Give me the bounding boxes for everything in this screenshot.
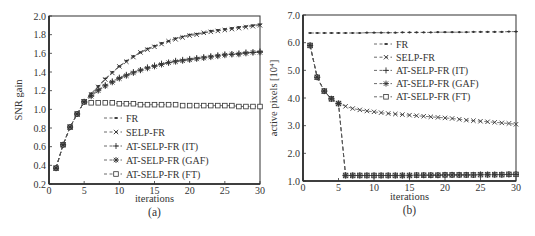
y-tick-label: 1.2	[34, 85, 47, 96]
y-tick-label: 1.0	[34, 104, 47, 115]
y-tick-label: 0.8	[34, 123, 47, 134]
legend-entry: AT-SELP-FR (FT)	[396, 91, 470, 103]
legend-entry: FR	[396, 39, 409, 50]
x-tick-label: 0	[301, 182, 306, 193]
y-tick-label: 1.8	[34, 29, 47, 40]
series-line	[310, 32, 516, 33]
legend-entry: SELP-FR	[396, 52, 435, 63]
series-markers	[53, 48, 263, 171]
legend: FRSELP-FRAT-SELP-FR (IT)AT-SELP-FR (GAF)…	[374, 39, 479, 104]
y-tick-label: 0.6	[34, 141, 47, 152]
legend-entry: SELP-FR	[126, 127, 165, 138]
legend-entry: FR	[126, 113, 139, 124]
panel-label: (b)	[403, 204, 417, 217]
y-tick-label: 2.0	[288, 148, 301, 159]
y-tick-label: 5.0	[288, 65, 301, 76]
legend-entry: AT-SELP-FR (IT)	[396, 65, 468, 77]
legend-entry: AT-SELP-FR (GAF)	[126, 155, 209, 167]
x-tick-label: 0	[47, 185, 52, 196]
x-tick-label: 25	[220, 185, 230, 196]
y-tick-label: 4.0	[288, 93, 301, 104]
y-tick-label: 7.0	[288, 10, 301, 21]
y-tick-label: 0.4	[34, 160, 47, 171]
y-tick-label: 6.0	[288, 37, 301, 48]
y-tick-label: 1.6	[34, 48, 47, 59]
x-tick-label: 25	[476, 182, 486, 193]
chart-panel-b: 0510152025301.02.03.04.05.06.07.0iterati…	[268, 10, 521, 218]
x-tick-label: 5	[336, 182, 341, 193]
legend-entry: AT-SELP-FR (IT)	[126, 141, 198, 153]
legend-entry: AT-SELP-FR (GAF)	[396, 78, 479, 90]
y-axis-label: active pixels [10⁴]	[268, 60, 279, 137]
series-markers	[53, 49, 263, 171]
x-tick-label: 30	[255, 185, 265, 196]
y-tick-label: 1.4	[34, 67, 47, 78]
y-axis-label: SNR gain	[13, 79, 24, 121]
series-markers	[308, 31, 518, 35]
y-tick-label: 3.0	[288, 120, 301, 131]
x-tick-label: 30	[511, 182, 521, 193]
y-tick-label: 2.0	[34, 11, 47, 22]
legend-entry: AT-SELP-FR (FT)	[126, 169, 200, 181]
x-tick-label: 20	[185, 185, 195, 196]
x-tick-label: 10	[369, 182, 379, 193]
y-tick-label: 0.2	[34, 179, 47, 190]
x-axis-label: iterations	[390, 191, 429, 202]
x-tick-label: 20	[440, 182, 450, 193]
panel-label: (a)	[148, 206, 161, 219]
chart-panel-a: 0510152025300.20.40.60.81.01.21.41.61.82…	[13, 11, 265, 220]
x-tick-label: 5	[82, 185, 87, 196]
y-tick-label: 1.0	[288, 176, 301, 187]
x-tick-label: 10	[114, 185, 124, 196]
x-axis-label: iterations	[135, 193, 174, 204]
legend: FRSELP-FRAT-SELP-FR (IT)AT-SELP-FR (GAF)…	[104, 113, 209, 181]
